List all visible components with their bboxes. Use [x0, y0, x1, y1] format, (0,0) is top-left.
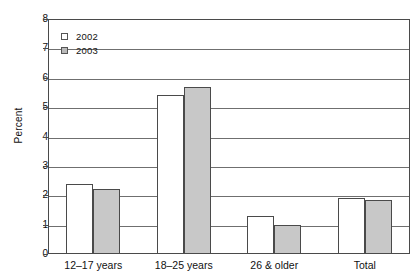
bar-chart: Percent 012345678 2002 2003 12–17 years1… [0, 0, 419, 278]
bar-2002-3[interactable] [338, 198, 365, 254]
x-tick-label-2: 26 & older [229, 259, 320, 271]
y-axis: 012345678 [12, 0, 48, 278]
x-tick-label-1: 18–25 years [139, 259, 230, 271]
bar-2002-2[interactable] [247, 216, 274, 254]
bar-2003-0[interactable] [93, 189, 120, 254]
chart-legend: 2002 2003 [61, 30, 98, 58]
bar-2002-0[interactable] [66, 184, 93, 255]
legend-swatch-2002-icon [61, 33, 68, 40]
legend-swatch-2003-icon [61, 47, 68, 54]
legend-label-2002: 2002 [76, 31, 98, 42]
bar-2002-1[interactable] [157, 95, 184, 254]
x-tick-label-3: Total [320, 259, 411, 271]
bars-layer [48, 19, 410, 254]
legend-item-2003[interactable]: 2003 [61, 44, 98, 56]
x-tick-label-0: 12–17 years [48, 259, 139, 271]
y-tick-mark [43, 254, 48, 255]
legend-label-2003: 2003 [76, 45, 98, 56]
bar-2003-2[interactable] [274, 225, 301, 254]
bar-2003-1[interactable] [184, 87, 211, 254]
legend-item-2002[interactable]: 2002 [61, 30, 98, 42]
bar-2003-3[interactable] [365, 200, 392, 254]
